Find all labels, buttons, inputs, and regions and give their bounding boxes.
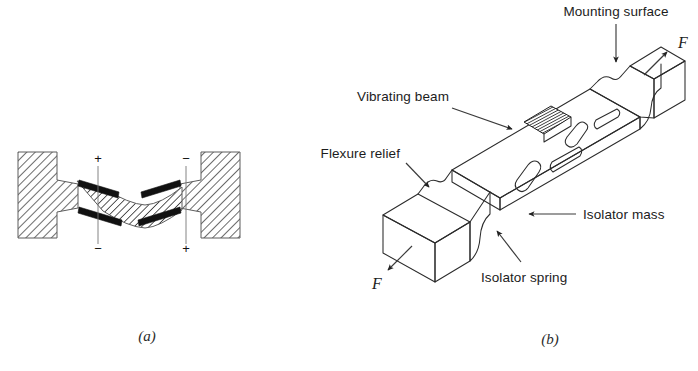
polarity-right-bottom: + [182, 241, 190, 256]
vibrating-beam-leader [452, 108, 512, 129]
polarity-right-top: − [182, 151, 190, 166]
left-end-block-side-face [435, 222, 470, 282]
label-force-lower-left: F [371, 275, 382, 292]
sensor-body-side-face [500, 117, 640, 210]
mounting-block-relief [640, 64, 661, 129]
isolator-slot-4 [594, 109, 620, 129]
flexure-relief-notch [418, 170, 452, 194]
isolator-slot-3 [565, 122, 588, 147]
flexure-relief-leader [406, 163, 429, 187]
label-mounting-surface: Mounting surface [563, 4, 668, 19]
left-wall [18, 152, 78, 238]
panel-b-group: Mounting surface Vibrating beam Flexure … [321, 4, 688, 348]
isolator-spring-leader [497, 231, 521, 262]
label-isolator-spring: Isolator spring [481, 270, 567, 285]
label-flexure-relief: Flexure relief [321, 146, 401, 161]
caption-panel-a: (a) [138, 328, 156, 345]
left-end-block-top-face [383, 194, 470, 243]
label-force-upper-right: F [677, 34, 688, 51]
panel-a-group: + − − + (a) [18, 151, 240, 345]
sensor-body-front-face [452, 170, 500, 210]
polarity-left-top: + [94, 151, 102, 166]
label-vibrating-beam: Vibrating beam [357, 89, 449, 104]
figure-svg: + − − + (a) [0, 0, 698, 371]
mounting-block-upper-face [630, 47, 685, 79]
figure-container: + − − + (a) [0, 0, 698, 371]
sensor-body-top-face [452, 89, 640, 198]
caption-panel-b: (b) [541, 331, 559, 348]
label-isolator-mass: Isolator mass [583, 207, 665, 222]
polarity-left-bottom: − [94, 241, 102, 256]
